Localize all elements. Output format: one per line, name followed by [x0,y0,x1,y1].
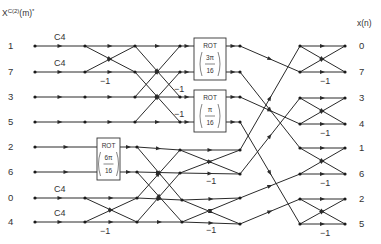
node-dot [180,220,183,223]
node-dot [83,120,86,123]
input-header: XC(2)(m)* [2,8,35,18]
arrow-icon [320,70,325,74]
node-dot [133,95,136,98]
node-dot [238,222,241,225]
node-dot [180,198,183,201]
rot-label: ROT [203,42,217,49]
input-index-labels: 17352604 [8,40,13,227]
rot-block: ROT3π16 [194,38,226,80]
arrow-icon [231,70,236,74]
arrow-icon [108,70,113,74]
node-dot [238,44,241,47]
node-dot [33,70,36,73]
arrow-icon [320,146,325,150]
multiplier-label: −1 [174,109,184,119]
rot-block: ROTπ16 [194,90,226,132]
node-dot [135,196,138,199]
node-dot [343,96,346,99]
output-index: 3 [359,92,364,103]
arrow-icon [156,146,161,150]
node-dot [343,44,346,47]
input-index: 0 [8,192,13,203]
input-index: 2 [8,141,13,152]
multiplier-label: C4 [54,184,66,194]
multiplier-label: C4 [54,58,66,68]
arrow-icon [320,44,325,48]
multiplier-label: −1 [100,76,110,86]
arrow-icon [58,44,63,48]
node-dot [135,220,138,223]
arrow-icon [320,222,325,226]
node-dot [133,44,136,47]
node-dot [33,120,36,123]
output-index: 2 [359,193,364,204]
output-index: 6 [359,168,364,179]
arrow-icon [207,171,212,175]
node-dot [83,196,86,199]
input-index: 1 [8,40,13,51]
arrow-icon [58,70,63,74]
multiplier-label: −1 [174,84,184,94]
arrow-icon [155,44,160,48]
arrow-icon [320,172,325,176]
arrow-icon [267,183,273,189]
arrow-icon [126,170,131,174]
arrow-icon [208,148,213,152]
output-index: 0 [359,40,364,51]
node-dot [178,44,181,47]
arrow-icon [109,196,114,200]
node-dot [238,172,241,175]
arrow-icon [320,122,325,126]
arrow-icon [319,158,325,164]
node-dot [298,172,301,175]
input-index: 7 [8,66,13,77]
arrow-icon [126,145,131,149]
arrow-icon [231,95,236,99]
node-dot [33,44,36,47]
signal-flow-diagram: ROT3π16ROTπ16ROT6π16 C4C4C4C4−1−1−1−1−1−… [0,0,381,244]
arrow-icon [319,108,325,114]
arrow-icon [319,56,325,62]
rot-denominator: 16 [206,67,214,74]
node-dot [33,220,36,223]
output-index: 5 [359,218,364,229]
node-dot [33,196,36,199]
node-dot [343,197,346,200]
node-dot [343,70,346,73]
arrow-icon [185,95,190,99]
arrow-icon [155,120,160,124]
input-index: 6 [8,166,13,177]
multiplier-label: C4 [54,208,66,218]
node-dot [83,95,86,98]
node-dot [135,170,138,173]
rot-numerator: π [208,106,213,113]
node-dot [178,70,181,73]
node-dot [33,95,36,98]
rot-denominator: 16 [206,119,214,126]
arrow-icon [320,96,325,100]
node-dot [178,120,181,123]
output-index-labels: 07341625 [359,40,364,229]
multiplier-label: C4 [54,32,66,42]
node-dot [135,145,138,148]
rot-numerator: 6π [104,154,113,161]
node-dot [238,148,241,151]
arrow-icon [108,207,114,213]
arrow-icon [207,159,213,165]
arrow-icon [109,220,114,224]
node-dot [343,122,346,125]
multiplier-label: −1 [320,128,330,138]
arrow-icon [267,95,273,101]
node-dot [238,196,241,199]
arrow-icon [58,196,63,200]
node-dot [298,96,301,99]
arrow-icon [320,197,325,201]
node-dot [298,146,301,149]
rot-numerator: 3π [206,54,215,61]
arrow-icon [231,44,236,48]
node-dot [238,120,241,123]
node-dot [238,70,241,73]
multiplier-label: −1 [320,228,330,238]
node-dot [33,145,36,148]
node-dot [298,70,301,73]
